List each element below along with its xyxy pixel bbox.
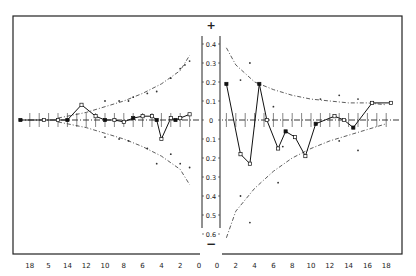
center-y-axis: 0.40.30.20.100.10.20.30.40.50.6+− <box>200 19 222 257</box>
y-tick-label: 0.3 <box>206 174 216 182</box>
minus-symbol: − <box>206 237 216 251</box>
scatter-point <box>179 163 181 165</box>
series-point <box>42 118 45 121</box>
confidence-band-lower <box>58 122 190 185</box>
series-point <box>248 162 251 165</box>
series-point <box>304 155 307 158</box>
confidence-band-lower <box>226 124 386 238</box>
scatter-point <box>170 77 172 79</box>
series-point <box>258 82 261 85</box>
series-point <box>293 136 296 139</box>
x-tick-label-left: 2 <box>178 262 182 270</box>
series-point <box>179 117 182 120</box>
scatter-point <box>273 106 275 108</box>
y-tick-label: 0.3 <box>206 60 216 68</box>
x-tick-label-left: 10 <box>101 262 110 270</box>
x-tick-label-right: 0 <box>215 262 219 270</box>
scatter-point <box>146 148 148 150</box>
chart: 0.40.30.20.100.10.20.30.40.50.6+− 185141… <box>0 0 416 276</box>
series-point <box>342 118 345 121</box>
left-panel <box>19 55 199 184</box>
series-point <box>371 101 374 104</box>
scatter-point <box>128 100 130 102</box>
series-point <box>389 101 392 104</box>
y-tick-label: 0.4 <box>206 41 216 49</box>
x-tick-label-right: 16 <box>363 262 372 270</box>
scatter-point <box>249 222 251 224</box>
x-tick-label-right: 18 <box>382 262 391 270</box>
series-point <box>113 118 116 121</box>
x-tick-label-right: 8 <box>290 262 294 270</box>
scatter-point <box>104 100 106 102</box>
x-tick-label-right: 6 <box>271 262 276 270</box>
x-tick-label-left: 5 <box>46 262 50 270</box>
scatter-point <box>118 100 120 102</box>
scatter-point <box>357 150 359 152</box>
scatter-point <box>128 140 130 142</box>
x-tick-label-left: 0 <box>197 262 201 270</box>
scatter-point <box>132 96 134 98</box>
scatter-point <box>104 136 106 138</box>
right-panel <box>217 48 400 238</box>
x-tick-label-left: 12 <box>82 262 91 270</box>
x-tick-label-left: 6 <box>140 262 145 270</box>
series-point <box>66 118 69 121</box>
series-point <box>155 118 158 121</box>
scatter-point <box>184 64 186 66</box>
scatter-point <box>156 91 158 93</box>
x-tick-label-right: 14 <box>344 262 353 270</box>
series-line <box>226 84 391 164</box>
y-tick-label: 0.1 <box>206 98 216 106</box>
series-point <box>94 115 97 118</box>
scatter-point <box>189 167 191 169</box>
scatter-point <box>240 195 242 197</box>
series-point <box>122 120 125 123</box>
x-tick-label-left: 18 <box>25 262 34 270</box>
series-point <box>265 118 268 121</box>
scatter-point <box>240 79 242 81</box>
y-tick-label: 0.5 <box>206 212 216 220</box>
series-point <box>239 153 242 156</box>
x-tick-label-right: 2 <box>234 262 238 270</box>
scatter-point <box>118 138 120 140</box>
series-point <box>80 103 83 106</box>
y-tick-label: 0.4 <box>206 193 216 201</box>
plus-symbol: + <box>206 19 215 32</box>
scatter-point <box>179 68 181 70</box>
series-point <box>277 147 280 150</box>
x-tick-label-left: 14 <box>63 262 72 270</box>
series-point <box>188 113 191 116</box>
scatter-point <box>277 182 279 184</box>
series-point <box>225 82 228 85</box>
scatter-point <box>146 93 148 95</box>
series-point <box>160 137 163 140</box>
scatter-point <box>282 146 284 148</box>
series-point <box>19 118 22 121</box>
scatter-point <box>338 94 340 96</box>
series-point <box>352 126 355 129</box>
series-point <box>150 115 153 118</box>
x-axis-tick-labels: 18514121086420024681012141618 <box>25 262 390 270</box>
x-tick-label-right: 4 <box>252 262 257 270</box>
y-tick-label-zero: 0 <box>209 117 213 125</box>
series-point <box>56 118 59 121</box>
scatter-point <box>249 62 251 64</box>
x-tick-label-right: 10 <box>307 262 316 270</box>
y-tick-label: 0.1 <box>206 136 216 144</box>
scatter-point <box>156 163 158 165</box>
series-point <box>174 118 177 121</box>
y-tick-label: 0.2 <box>206 79 216 87</box>
x-tick-label-left: 4 <box>159 262 164 270</box>
x-tick-label-left: 8 <box>122 262 126 270</box>
scatter-point <box>189 60 191 62</box>
series-point <box>333 115 336 118</box>
y-tick-label: 0.2 <box>206 155 216 163</box>
scatter-point <box>170 153 172 155</box>
scatter-point <box>320 98 322 100</box>
scatter-point <box>357 98 359 100</box>
series-point <box>103 118 106 121</box>
x-tick-label-right: 12 <box>325 262 334 270</box>
series-point <box>284 130 287 133</box>
series-point <box>132 117 135 120</box>
series-point <box>169 117 172 120</box>
